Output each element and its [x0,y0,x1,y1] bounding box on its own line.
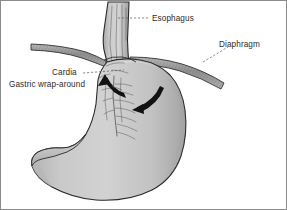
diagram-canvas: Esophagus Diaphragm Cardia Gastric wrap-… [0,0,287,210]
label-cardia: Cardia [52,68,77,77]
diaphragm-leader [203,47,228,62]
label-gastric-wrap-around: Gastric wrap-around [9,80,85,89]
esophagus-tube [103,2,129,66]
diaphragm-left-band [31,44,106,67]
label-esophagus: Esophagus [152,14,194,23]
anatomical-figure: Esophagus Diaphragm Cardia Gastric wrap-… [0,0,287,210]
label-diaphragm: Diaphragm [219,40,260,49]
